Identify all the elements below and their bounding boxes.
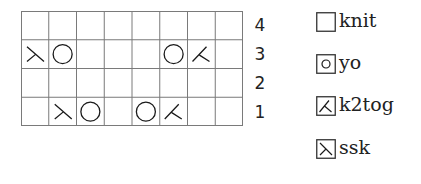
k2tog-stitch-icon [193, 47, 210, 62]
legend-label: knit [339, 8, 376, 32]
k2tog-stitch-icon [165, 104, 182, 119]
legend-label: k2tog [339, 92, 394, 116]
ssk-stitch-icon [55, 104, 72, 119]
yo-stitch-icon [136, 102, 155, 121]
row-number-1: 1 [253, 102, 267, 122]
row-number-4: 4 [253, 15, 267, 35]
yo-symbol-icon [316, 54, 336, 74]
knit-symbol-icon [316, 12, 336, 32]
row-number-2: 2 [253, 73, 267, 93]
row-number-3: 3 [253, 44, 267, 64]
legend-label: ssk [339, 135, 370, 159]
yo-stitch-icon [164, 45, 183, 64]
legend-label: yo [339, 50, 361, 74]
chart-grid [21, 11, 245, 129]
yo-stitch-icon [81, 102, 100, 121]
yo-stitch-icon [53, 45, 72, 64]
ssk-symbol-icon [316, 139, 336, 159]
k2tog-symbol-icon [316, 96, 336, 116]
ssk-stitch-icon [27, 47, 44, 62]
